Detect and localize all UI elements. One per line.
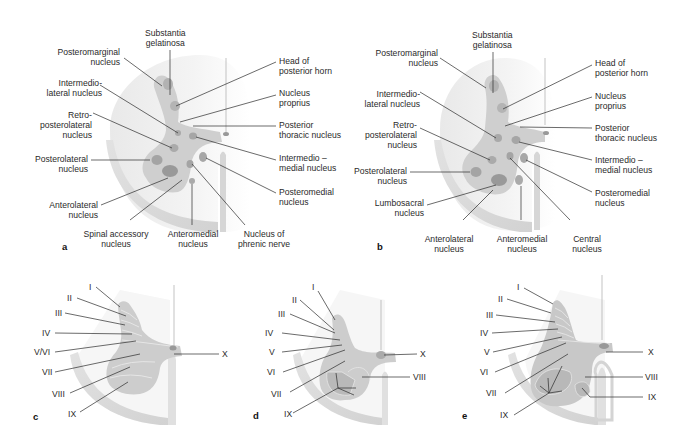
- lamina-d-3: III: [278, 309, 285, 319]
- panel-letter-d: d: [253, 410, 259, 421]
- panel-a-diagram: [91, 50, 276, 233]
- label-nucleus-proprius-b: Nucleusproprius: [595, 91, 626, 111]
- label-posterior-thoracic-b: Posteriorthoracic nucleus: [595, 123, 657, 143]
- label-nucleus-proprius-a: Nucleusproprius: [279, 88, 310, 108]
- lamina-e-1: I: [517, 282, 519, 292]
- label-lumbosacral-b: Lumbosacralnucleus: [362, 198, 424, 218]
- lamina-c-2: II: [67, 293, 72, 303]
- label-spinal-accessory-a: Spinal accessorynucleus: [80, 229, 152, 249]
- label-head-posterior-horn-a: Head ofposterior horn: [279, 56, 332, 76]
- label-anterolateral-a: Anterolateralnucleus: [38, 200, 98, 220]
- lamina-e-x: X: [648, 347, 654, 357]
- lamina-e-7: VII: [486, 388, 497, 398]
- lamina-c-7: VIII: [52, 389, 65, 399]
- label-intermediolateral-b: Intermedio-lateral nucleus: [354, 89, 420, 109]
- label-posteromarginal-a: Posteromarginalnucleus: [48, 47, 120, 67]
- lamina-d-1: I: [312, 282, 314, 292]
- lamina-c-8: IX: [68, 409, 76, 419]
- label-posteromedial-b: Posteromedialnucleus: [595, 188, 650, 208]
- label-anteromedial-b: Anteromedialnucleus: [492, 234, 552, 254]
- panel-b-diagram: [410, 52, 592, 232]
- label-posteromedial-a: Posteromedialnucleus: [279, 187, 334, 207]
- lamina-e-3: III: [486, 310, 493, 320]
- label-posterior-thoracic-a: Posteriorthoracic nucleus: [279, 120, 341, 140]
- lamina-e-4: IV: [480, 328, 488, 338]
- lamina-c-5: V/VI: [34, 347, 50, 357]
- panel-e-diagram: [492, 275, 643, 425]
- lamina-c-x: X: [222, 349, 228, 359]
- label-retroposterolateral-b: Retro-posterolateralnucleus: [355, 120, 417, 150]
- lamina-e-5: V: [484, 347, 490, 357]
- panel-d-diagram: [282, 290, 417, 425]
- spinal-cord-nuclei-figure: Substantiagelatinosa Posteromarginalnucl…: [0, 0, 693, 441]
- lamina-d-4: IV: [265, 328, 273, 338]
- lamina-e-9-left: IX: [500, 410, 508, 420]
- panel-letter-e: e: [462, 410, 467, 421]
- panel-letter-b: b: [377, 241, 383, 252]
- label-central-b: Centralnucleus: [567, 234, 607, 254]
- lamina-e-9-right: IX: [648, 392, 656, 402]
- lamina-e-8: VIII: [645, 372, 658, 382]
- lamina-d-9: IX: [284, 409, 292, 419]
- label-phrenic-a: Nucleus ofphrenic nerve: [232, 229, 296, 249]
- label-posterolateral-a: Posterolateralnucleus: [28, 154, 88, 174]
- lamina-d-7: VII: [271, 389, 282, 399]
- label-anteromedial-a: Anteromedialnucleus: [165, 229, 221, 249]
- panel-letter-a: a: [62, 241, 67, 252]
- lamina-c-6: VII: [42, 367, 53, 377]
- lamina-c-4: IV: [42, 328, 50, 338]
- label-anterolateral-b: Anterolateralnucleus: [418, 234, 480, 254]
- panel-c-diagram: [55, 285, 219, 425]
- label-intermediolateral-a: Intermedio-lateral nucleus: [38, 78, 102, 98]
- label-intermediomedial-b: Intermedio –medial nucleus: [595, 155, 652, 175]
- lamina-d-5: V: [269, 347, 275, 357]
- label-intermediomedial-a: Intermedio –medial nucleus: [279, 153, 336, 173]
- lamina-d-x: X: [420, 349, 426, 359]
- lamina-c-3: III: [55, 308, 62, 318]
- label-head-posterior-horn-b: Head ofposterior horn: [595, 58, 648, 78]
- label-posteromarginal-b: Posteromarginalnucleus: [362, 48, 438, 68]
- label-posterolateral-b: Posterolateralnucleus: [345, 166, 407, 186]
- lamina-c-1: I: [89, 282, 91, 292]
- lamina-e-6: VI: [480, 367, 488, 377]
- lamina-d-6: VI: [267, 367, 275, 377]
- lamina-e-2: II: [498, 294, 503, 304]
- label-substantia-gelatinosa-b: Substantiagelatinosa: [472, 30, 513, 50]
- lamina-d-8: VIII: [413, 372, 426, 382]
- label-retroposterolateral-a: Retro-posterolateralnucleus: [32, 110, 92, 140]
- label-substantia-gelatinosa-a: Substantiagelatinosa: [145, 28, 186, 48]
- lamina-d-2: II: [292, 295, 297, 305]
- panel-letter-c: c: [33, 411, 38, 422]
